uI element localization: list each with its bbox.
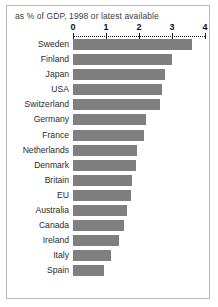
bar — [73, 84, 162, 95]
x-axis-tick-label: 0 — [70, 22, 75, 32]
bar — [73, 54, 172, 65]
bar-row: Ireland — [7, 234, 209, 249]
bar-row: Canada — [7, 219, 209, 234]
bar-row: Italy — [7, 249, 209, 264]
bar-track — [73, 114, 205, 125]
bar-category-label: Spain — [7, 264, 69, 277]
bar-track — [73, 84, 205, 95]
bar-row: Sweden — [7, 38, 209, 53]
bar — [73, 69, 165, 80]
bar-category-label: Canada — [7, 219, 69, 232]
bar — [73, 205, 127, 216]
bar-category-label: Finland — [7, 53, 69, 66]
bar-row: France — [7, 129, 209, 144]
bar-track — [73, 69, 205, 80]
bar-category-label: USA — [7, 83, 69, 96]
bar-row: USA — [7, 83, 209, 98]
bar-rows: SwedenFinlandJapanUSASwitzerlandGermanyF… — [7, 38, 209, 280]
bar-track — [73, 54, 205, 65]
bar-category-label: Sweden — [7, 38, 69, 51]
bar-category-label: Britain — [7, 174, 69, 187]
x-axis-tick-label: 2 — [136, 22, 141, 32]
chart-caption: as % of GDP, 1998 or latest available — [15, 11, 159, 21]
bar — [73, 175, 132, 186]
bar-row: EU — [7, 189, 209, 204]
bar-category-label: Australia — [7, 204, 69, 217]
bar-category-label: Germany — [7, 113, 69, 126]
bar-track — [73, 175, 205, 186]
bar-row: Switzerland — [7, 98, 209, 113]
bar-track — [73, 235, 205, 246]
bar-track — [73, 205, 205, 216]
bar-track — [73, 160, 205, 171]
bar — [73, 250, 111, 261]
bar — [73, 114, 146, 125]
bar-category-label: Japan — [7, 68, 69, 81]
bar-track — [73, 220, 205, 231]
bar — [73, 39, 192, 50]
bar — [73, 160, 136, 171]
bar-track — [73, 250, 205, 261]
bar-category-label: Italy — [7, 249, 69, 262]
bar — [73, 235, 119, 246]
x-axis-tick-label: 1 — [103, 22, 108, 32]
bar-category-label: Ireland — [7, 234, 69, 247]
bar-row: Denmark — [7, 159, 209, 174]
bar-track — [73, 99, 205, 110]
bar — [73, 145, 137, 156]
bar — [73, 99, 160, 110]
bar-category-label: France — [7, 129, 69, 142]
bar-row: Spain — [7, 264, 209, 279]
bar-row: Australia — [7, 204, 209, 219]
chart-figure: as % of GDP, 1998 or latest available 01… — [6, 5, 210, 299]
bar-track — [73, 39, 205, 50]
bar — [73, 190, 131, 201]
x-axis-tick-label: 4 — [202, 22, 207, 32]
bar-category-label: Denmark — [7, 159, 69, 172]
bar-category-label: Switzerland — [7, 98, 69, 111]
bar-row: Germany — [7, 113, 209, 128]
bar-track — [73, 145, 205, 156]
bar-track — [73, 265, 205, 276]
bar — [73, 265, 104, 276]
bar-category-label: Netherlands — [7, 144, 69, 157]
bar-row: Japan — [7, 68, 209, 83]
bar-track — [73, 190, 205, 201]
chart-plot-area: 01234 SwedenFinlandJapanUSASwitzerlandGe… — [7, 24, 209, 298]
bar-row: Finland — [7, 53, 209, 68]
bar-track — [73, 130, 205, 141]
x-axis-tick-label: 3 — [169, 22, 174, 32]
bar — [73, 130, 144, 141]
bar-row: Netherlands — [7, 144, 209, 159]
bar — [73, 220, 124, 231]
bar-category-label: EU — [7, 189, 69, 202]
bar-row: Britain — [7, 174, 209, 189]
